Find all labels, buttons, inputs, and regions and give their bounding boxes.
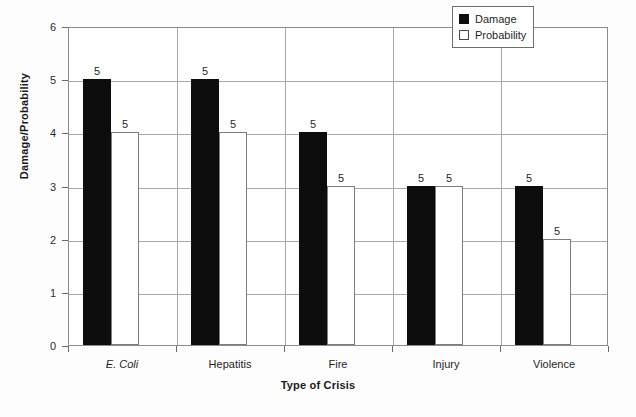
filled-square-icon	[459, 14, 469, 24]
y-tick-label: 6	[34, 22, 56, 33]
y-tick-label: 5	[34, 75, 56, 86]
bar-value-label: 5	[101, 119, 149, 130]
x-tick-label-hepatitis: Hepatitis	[176, 358, 284, 370]
x-tick-label-injury: Injury	[392, 358, 500, 370]
bar-value-label: 5	[73, 66, 121, 77]
category-separator	[393, 28, 394, 345]
x-tick-mark	[176, 346, 177, 352]
category-separator	[177, 28, 178, 345]
y-tick-label: 1	[34, 288, 56, 299]
x-tick-mark	[500, 346, 501, 352]
y-axis-title: Damage/Probability	[18, 36, 30, 216]
plot-area: 5555555555	[68, 27, 608, 346]
bar-probability-hepatitis[interactable]	[219, 132, 247, 345]
legend-item-probability[interactable]: Probability	[459, 27, 526, 43]
bar-probability-injury[interactable]	[435, 186, 463, 346]
x-tick-mark	[68, 346, 69, 352]
x-axis-title: Type of Crisis	[0, 379, 636, 391]
bar-value-label: 5	[533, 226, 581, 237]
bar-value-label: 5	[425, 173, 473, 184]
category-separator	[501, 28, 502, 345]
x-tick-mark	[392, 346, 393, 352]
bar-probability-fire[interactable]	[327, 186, 355, 346]
bar-value-label: 5	[209, 119, 257, 130]
legend: DamageProbability	[452, 6, 534, 48]
bar-damage-fire[interactable]	[299, 132, 327, 345]
y-tick-label: 2	[34, 235, 56, 246]
x-tick-label-violence: Violence	[500, 358, 608, 370]
category-separator	[285, 28, 286, 345]
y-tick-label: 4	[34, 128, 56, 139]
legend-label: Damage	[475, 13, 517, 25]
x-tick-label-fire: Fire	[284, 358, 392, 370]
gridline	[69, 81, 607, 82]
bar-value-label: 5	[317, 173, 365, 184]
bar-value-label: 5	[181, 66, 229, 77]
x-tick-mark	[608, 346, 609, 352]
hollow-square-icon	[459, 30, 469, 40]
y-tick-label: 0	[34, 341, 56, 352]
bar-chart: Damage/Probability Type of Crisis 012345…	[0, 0, 636, 417]
bar-probability-violence[interactable]	[543, 239, 571, 345]
bar-probability-e-coli[interactable]	[111, 132, 139, 345]
bar-value-label: 5	[289, 119, 337, 130]
bar-damage-violence[interactable]	[515, 186, 543, 346]
gridline	[69, 134, 607, 135]
legend-label: Probability	[475, 29, 526, 41]
x-tick-label-e-coli: E. Coli	[68, 358, 176, 370]
y-tick-label: 3	[34, 182, 56, 193]
bar-value-label: 5	[505, 173, 553, 184]
legend-item-damage[interactable]: Damage	[459, 11, 526, 27]
x-tick-mark	[284, 346, 285, 352]
bar-damage-injury[interactable]	[407, 186, 435, 346]
